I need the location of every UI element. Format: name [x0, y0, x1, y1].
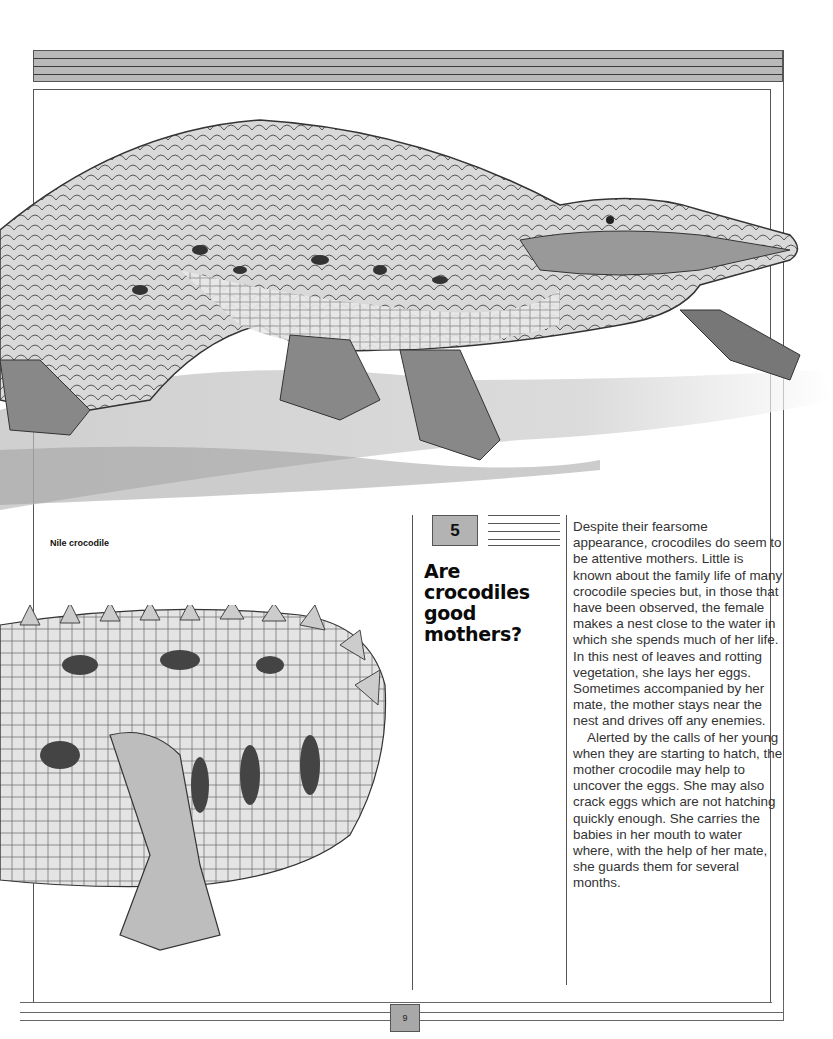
heading-line: crocodiles	[424, 582, 564, 603]
frame-corner	[783, 1000, 784, 1021]
body-text: Despite their fearsome appearance, croco…	[573, 519, 783, 892]
banner-stripe	[34, 58, 782, 59]
illustration-caption: Nile crocodile	[50, 538, 109, 548]
section-heading: Are crocodiles good mothers?	[424, 561, 564, 645]
heading-line: good	[424, 603, 564, 624]
decorative-lines	[488, 515, 560, 546]
heading-line: mothers?	[424, 624, 564, 645]
section-number-badge: 5	[432, 515, 478, 546]
paragraph: Despite their fearsome appearance, croco…	[573, 519, 783, 730]
heading-line: Are	[424, 561, 564, 582]
top-banner	[33, 50, 783, 82]
text-column-divider	[566, 515, 567, 985]
banner-stripe	[34, 74, 782, 75]
banner-stripe	[34, 66, 782, 67]
paragraph: Alerted by the calls of her young when t…	[573, 730, 783, 892]
crocodile-illustration	[0, 110, 833, 510]
bottom-rule	[20, 1002, 772, 1003]
crocodile-tail-illustration	[0, 605, 420, 965]
column-divider	[412, 515, 413, 990]
page-number: 9	[390, 1004, 420, 1032]
